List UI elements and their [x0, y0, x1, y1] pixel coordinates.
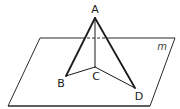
- label-plane-m: m: [157, 41, 167, 52]
- geometry-figure: A B C D m: [0, 0, 180, 109]
- label-B: B: [57, 77, 65, 90]
- edge-AB: [66, 18, 95, 76]
- figure-edges: [66, 18, 135, 88]
- label-C: C: [92, 70, 100, 83]
- plane-edge-left: [8, 38, 40, 106]
- label-D: D: [135, 90, 143, 103]
- label-A: A: [91, 3, 99, 16]
